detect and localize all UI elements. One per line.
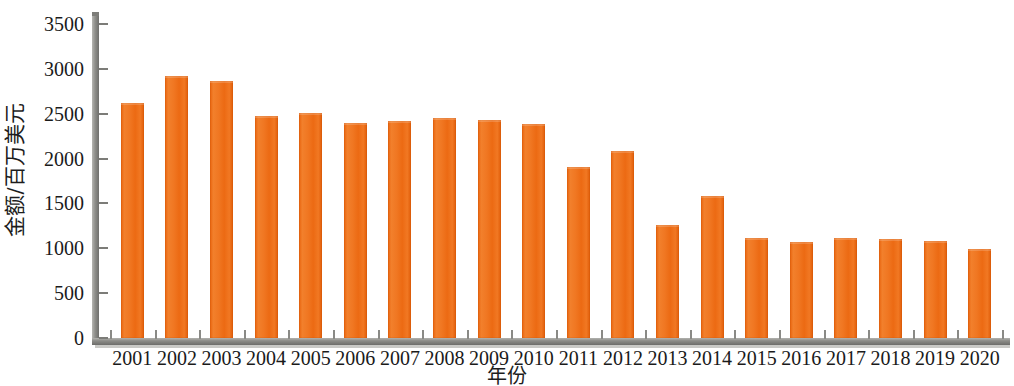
y-tick-label: 500 [54,283,84,303]
x-tick-mark [601,330,603,339]
bar [522,124,545,338]
y-tick-label: 2000 [44,149,84,169]
x-tick-mark [957,330,959,339]
y-tick-label: 3500 [44,14,84,34]
y-tick-label: 2500 [44,104,84,124]
y-axis-tick-labels: 0500100015002000250030003500 [26,0,88,386]
bar [121,103,144,338]
bar [388,121,411,338]
bar [745,238,768,338]
y-tick-label: 1500 [44,193,84,213]
y-tick-label: 0 [74,328,84,348]
y-tick-mark [99,68,108,70]
x-tick-mark [511,330,513,339]
y-tick-mark [99,158,108,160]
y-tick-mark [99,247,108,249]
bar [790,242,813,338]
y-axis-title-text: 金额/百万美元 [0,103,28,236]
x-tick-mark [333,330,335,339]
x-tick-mark [422,330,424,339]
x-tick-mark [110,330,112,339]
x-tick-mark [288,330,290,339]
y-tick-label: 1000 [44,238,84,258]
x-tick-mark [868,330,870,339]
x-tick-mark [244,330,246,339]
x-tick-mark [690,330,692,339]
x-tick-mark [1002,330,1004,339]
x-tick-mark [645,330,647,339]
bar [255,116,278,338]
y-axis-line [92,12,99,342]
bar [165,76,188,338]
y-tick-mark [99,202,108,204]
x-tick-mark [556,330,558,339]
x-tick-mark [199,330,201,339]
bar [567,167,590,338]
bar [656,225,679,338]
bar [834,238,857,338]
bar [299,113,322,338]
bar-chart: 金额/百万美元 0500100015002000250030003500 200… [0,0,1014,386]
x-tick-mark [824,330,826,339]
y-tick-mark [99,113,108,115]
bar [701,196,724,338]
x-tick-mark [467,330,469,339]
x-tick-mark [734,330,736,339]
x-tick-mark [779,330,781,339]
y-tick-label: 3000 [44,59,84,79]
x-axis-title: 年份 [0,366,1014,386]
y-tick-mark [99,292,108,294]
bar [879,239,902,338]
y-axis-cap [92,12,99,16]
y-axis-title: 金额/百万美元 [0,0,26,340]
bar [611,151,634,339]
plot-area [92,12,1010,344]
bar [968,249,991,338]
x-tick-mark [155,330,157,339]
bar [924,241,947,338]
x-tick-mark [378,330,380,339]
x-axis-line [92,338,1010,345]
bar [478,120,501,338]
y-tick-mark [99,337,108,339]
y-tick-mark [99,23,108,25]
x-tick-mark [913,330,915,339]
bar [210,81,233,338]
bar [344,123,367,338]
bar [433,118,456,338]
